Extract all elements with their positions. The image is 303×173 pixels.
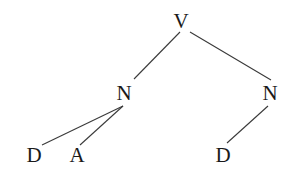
tree-diagram: V N N D A D [0,0,303,173]
edge-n2-d2 [227,106,268,143]
node-d-left: D [22,144,46,166]
edge-n1-a1 [80,106,123,145]
node-n-left: N [112,82,136,104]
edge-n1-d1 [42,106,123,145]
node-d-right: D [211,144,235,166]
node-a: A [65,144,89,166]
node-root-v: V [169,10,193,32]
edge-v-n2 [190,32,271,80]
node-n-right: N [258,82,282,104]
edge-v-n1 [134,32,180,79]
